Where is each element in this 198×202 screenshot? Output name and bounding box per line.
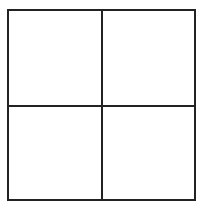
horizontal-divider <box>9 105 194 107</box>
grid-cell-top-left <box>9 11 101 105</box>
grid-cell-top-right <box>103 11 194 105</box>
grid-cell-bottom-left <box>9 107 101 199</box>
grid-cell-bottom-right <box>103 107 194 199</box>
quadrant-grid <box>7 9 196 201</box>
